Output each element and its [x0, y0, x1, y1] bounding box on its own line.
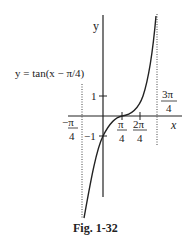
two-pi4-num: 2π — [133, 118, 145, 130]
tan-graph: y y = tan(x − π/4) 1 −1 x −π 4 π 4 2π 4 … — [0, 0, 190, 238]
neg-pi4-den: 4 — [69, 130, 75, 142]
two-pi4-den: 4 — [137, 132, 143, 144]
function-label: y = tan(x − π/4) — [15, 67, 85, 80]
tan-curve — [84, 16, 156, 218]
y-axis-label: y — [93, 19, 99, 33]
three-pi4-den: 4 — [166, 102, 172, 114]
y-tick-minus1-label: −1 — [84, 130, 96, 142]
three-pi4-num: 3π — [162, 88, 174, 100]
pi4-num: π — [118, 118, 124, 130]
x-axis-label: x — [170, 118, 177, 132]
neg-pi4-num: −π — [62, 116, 74, 128]
y-tick-1-label: 1 — [91, 90, 97, 102]
figure-caption: Fig. 1-32 — [73, 221, 118, 235]
pi4-den: 4 — [119, 132, 125, 144]
